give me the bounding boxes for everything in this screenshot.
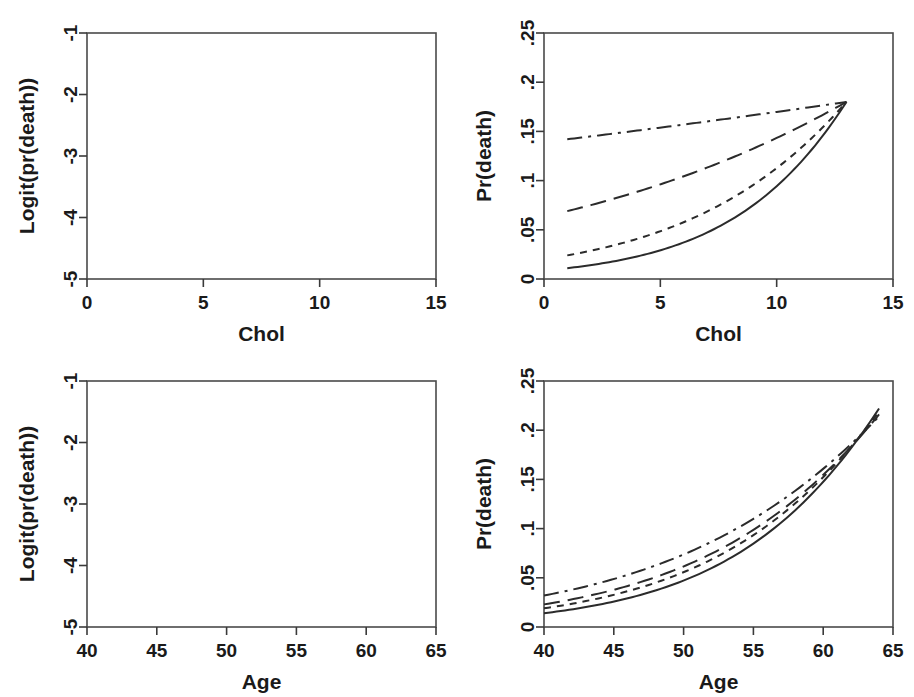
x-tick-label: 10 xyxy=(766,292,787,313)
y-tick-label: .2 xyxy=(517,74,538,90)
x-tick-label: 55 xyxy=(286,640,308,661)
y-tick-label: .25 xyxy=(517,19,538,46)
curve-top-right-curve-4 xyxy=(567,102,846,268)
x-tick-label: 65 xyxy=(425,640,447,661)
plot-frame xyxy=(87,33,436,279)
y-tick-label: .15 xyxy=(517,118,538,145)
plot-frame xyxy=(544,381,893,627)
y-tick-label: -1 xyxy=(60,24,81,41)
x-axis-title: Chol xyxy=(695,322,742,345)
x-axis-title: Age xyxy=(242,670,282,693)
y-tick-label: .05 xyxy=(517,216,538,243)
curve-bottom-right-curve-2 xyxy=(544,414,879,604)
y-tick-label: .1 xyxy=(517,172,538,188)
plot-frame xyxy=(544,33,893,279)
panel-bottom-right-pr-age: 4045505560650.05.1.15.2.25AgePr(death) xyxy=(457,348,914,696)
plot-frame xyxy=(87,381,436,627)
x-tick-label: 45 xyxy=(603,640,625,661)
x-tick-label: 15 xyxy=(882,292,904,313)
y-tick-label: .1 xyxy=(517,520,538,536)
y-tick-label: -3 xyxy=(60,496,81,513)
panel-bottom-left-logit-age: 404550556065-1-2-3-4-5AgeLogit(pr(death)… xyxy=(0,348,457,696)
y-tick-label: -4 xyxy=(60,557,81,574)
x-tick-label: 15 xyxy=(425,292,447,313)
plot-top-left: 051015-1-2-3-4-5CholLogit(pr(death)) xyxy=(0,0,457,349)
plot-bottom-left: 404550556065-1-2-3-4-5AgeLogit(pr(death)… xyxy=(0,348,457,697)
x-tick-label: 0 xyxy=(82,292,93,313)
y-axis-title: Logit(pr(death)) xyxy=(15,426,38,582)
x-tick-label: 5 xyxy=(198,292,209,313)
y-tick-label: -1 xyxy=(60,372,81,389)
x-tick-label: 10 xyxy=(309,292,330,313)
y-tick-label: -2 xyxy=(60,434,81,451)
panel-top-left-logit-chol: 051015-1-2-3-4-5CholLogit(pr(death)) xyxy=(0,0,457,348)
plot-bottom-right: 4045505560650.05.1.15.2.25AgePr(death) xyxy=(457,348,914,697)
x-tick-label: 0 xyxy=(539,292,550,313)
x-tick-label: 5 xyxy=(655,292,666,313)
panel-top-right-pr-chol: 0510150.05.1.15.2.25CholPr(death) xyxy=(457,0,914,348)
curve-top-right-curve-1 xyxy=(567,102,846,139)
x-tick-label: 65 xyxy=(882,640,904,661)
y-tick-label: .25 xyxy=(517,367,538,394)
y-tick-label: .2 xyxy=(517,422,538,438)
x-tick-label: 40 xyxy=(76,640,97,661)
x-tick-label: 50 xyxy=(673,640,694,661)
y-tick-label: -5 xyxy=(60,270,81,287)
x-tick-label: 60 xyxy=(813,640,834,661)
figure-four-panel-logistic-plots: 051015-1-2-3-4-5CholLogit(pr(death)) 051… xyxy=(0,0,914,697)
y-tick-label: 0 xyxy=(517,274,538,285)
x-tick-label: 40 xyxy=(533,640,554,661)
x-tick-label: 60 xyxy=(356,640,377,661)
y-axis-title: Pr(death) xyxy=(472,458,495,550)
x-axis-title: Age xyxy=(699,670,739,693)
curve-bottom-right-curve-3 xyxy=(544,412,879,609)
y-tick-label: -5 xyxy=(60,618,81,635)
y-tick-label: -3 xyxy=(60,148,81,165)
x-tick-label: 55 xyxy=(743,640,765,661)
y-tick-label: .05 xyxy=(517,564,538,591)
y-tick-label: -2 xyxy=(60,86,81,103)
y-axis-title: Pr(death) xyxy=(472,110,495,202)
x-tick-label: 50 xyxy=(216,640,237,661)
plot-top-right: 0510150.05.1.15.2.25CholPr(death) xyxy=(457,0,914,349)
curve-bottom-right-curve-4 xyxy=(544,409,879,614)
x-axis-title: Chol xyxy=(238,322,285,345)
y-axis-title: Logit(pr(death)) xyxy=(15,78,38,234)
y-tick-label: -4 xyxy=(60,209,81,226)
y-tick-label: .15 xyxy=(517,466,538,493)
y-tick-label: 0 xyxy=(517,622,538,633)
x-tick-label: 45 xyxy=(146,640,168,661)
